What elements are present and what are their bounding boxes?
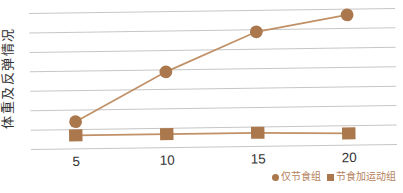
data-point-circle [69, 115, 82, 128]
legend-circle-marker-icon [272, 174, 279, 181]
x-axis-tick-labels: 5101520 [72, 150, 356, 169]
x-tick-label: 20 [341, 150, 356, 165]
data-point-square [342, 127, 356, 139]
data-point-circle [159, 65, 172, 78]
legend-item-diet-plus-exercise: 节食加运动组 [327, 172, 396, 182]
x-tick-label: 15 [251, 151, 266, 166]
data-point-circle [250, 25, 263, 38]
legend-item-diet-only: 仅节食组 [272, 172, 321, 182]
gridline [30, 86, 396, 91]
legend-square-marker-icon [327, 174, 334, 181]
gridline [30, 106, 396, 111]
x-tick-label: 5 [72, 154, 80, 169]
gridline [31, 125, 397, 130]
x-tick-label: 10 [160, 153, 175, 168]
data-point-square [160, 128, 174, 140]
gridline [30, 67, 396, 72]
plot-tilt-group: 5101520 [29, 8, 397, 170]
gridlines [29, 8, 397, 149]
gridline [29, 8, 395, 13]
chart-legend: 仅节食组 节食加运动组 [272, 172, 396, 182]
data-point-circle [341, 8, 354, 21]
series-line [76, 132, 349, 138]
legend-label-diet-only: 仅节食组 [281, 172, 321, 182]
legend-label-diet-plus-exercise: 节食加运动组 [336, 172, 396, 182]
y-axis-label: 体重及反弹情况 [0, 27, 15, 129]
gridline [31, 144, 397, 149]
data-point-square [251, 127, 265, 139]
gridline [29, 28, 395, 33]
data-point-square [69, 129, 83, 141]
weight-rebound-line-chart: 体重及反弹情况 5101520 仅节食组 节食加运动组 [0, 0, 403, 193]
plot-area: 体重及反弹情况 5101520 [0, 0, 403, 193]
